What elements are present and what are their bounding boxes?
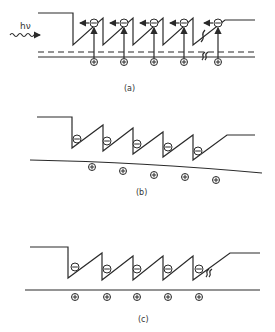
recombination-mark-icon [202,52,205,60]
panel-label-c: (c) [138,315,149,324]
electron-icon [164,265,172,273]
band-diagram-figure: hν (a) (b) (c) [0,0,275,332]
recombination-mark-icon [209,269,212,277]
electron-icon [73,135,81,143]
recombination-mark-icon [205,52,208,60]
hole-icon [72,294,79,301]
electron-icon [214,19,222,27]
panel-c: (c) [25,247,260,324]
hole-icon [151,172,158,179]
conduction-band-c [30,247,260,280]
electron-icon [194,147,202,155]
electron-icon [133,265,141,273]
electron-icon [90,19,98,27]
hole-icon [213,177,220,184]
hole-icon [165,294,172,301]
hole-icon [121,59,128,66]
hole-icon [182,174,189,181]
panel-label-a: (a) [124,84,135,93]
panel-a: hν (a) [10,13,255,93]
photon-wave-icon [10,34,40,37]
electron-icon [71,263,79,271]
electron-icon [164,143,172,151]
hole-icon [151,59,158,66]
carriers-b [73,135,220,184]
hole-icon [134,294,141,301]
hole-icon [89,164,96,171]
photon-label: hν [20,21,31,31]
electron-icon [120,19,128,27]
hole-icon [120,168,127,175]
electron-icon [133,140,141,148]
electron-icon [150,19,158,27]
panel-b: (b) [30,117,262,197]
electron-icon [103,137,111,145]
hole-icon [196,294,203,301]
hole-icon [91,59,98,66]
hole-icon [181,59,188,66]
conduction-band-b [37,117,255,160]
panel-label-b: (b) [136,188,147,197]
hole-icon [215,59,222,66]
electron-icon [103,265,111,273]
valence-band-b [30,160,262,173]
hole-icon [104,294,111,301]
conduction-band-a [38,13,255,45]
carriers-a [80,19,222,66]
electron-icon [195,265,203,273]
electron-icon [180,19,188,27]
carriers-c [71,263,203,301]
